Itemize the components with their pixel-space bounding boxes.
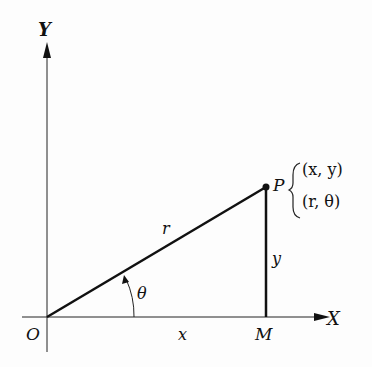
origin-label: O [26,326,40,343]
angle-arc [126,279,134,317]
radius-label: r [162,221,170,237]
cartesian-coords: (x, y) [302,162,343,178]
y-axis-label: Y [38,21,51,39]
y-length-label: y [272,251,281,267]
brace [289,163,300,218]
radius-line [47,187,266,317]
angle-label: θ [137,286,147,302]
foot-label-m: M [255,326,272,343]
polar-coordinates-diagram: Y X O M x y r θ P (x, y) (r, θ) [0,0,372,367]
point-label-p: P [273,177,284,194]
point-p-dot [263,184,270,191]
x-length-label: x [178,327,187,343]
x-axis-label: X [327,310,340,328]
diagram-lines [0,0,372,367]
polar-coords: (r, θ) [302,194,340,210]
y-axis-arrow-icon [43,42,51,58]
